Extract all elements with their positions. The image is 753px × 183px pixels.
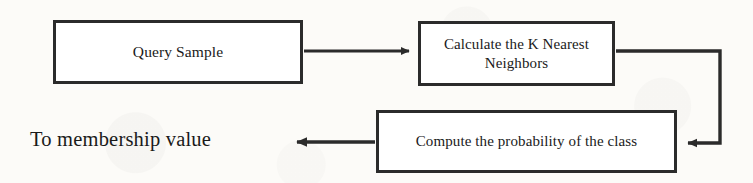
node-calculate-knn-label: Calculate the K Nearest Neighbors: [421, 35, 612, 72]
node-compute-probability: Compute the probability of the class: [376, 110, 677, 173]
node-calculate-knn: Calculate the K Nearest Neighbors: [418, 21, 615, 86]
node-compute-probability-label: Compute the probability of the class: [410, 132, 643, 150]
terminal-membership-value: To membership value: [30, 128, 276, 151]
node-query-sample: Query Sample: [53, 20, 303, 84]
node-query-sample-label: Query Sample: [127, 43, 229, 62]
flowchart-diagram: Query Sample Calculate the K Nearest Nei…: [0, 0, 753, 183]
